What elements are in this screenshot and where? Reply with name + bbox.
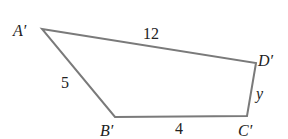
vertex-label-b: B′ [100,122,114,139]
side-length-ad: 12 [143,25,159,42]
quadrilateral-shape [42,29,256,117]
vertex-label-a: A′ [12,22,27,39]
side-length-bc: 4 [175,120,183,137]
side-length-cd: y [254,85,264,103]
side-length-ab: 5 [61,74,69,91]
vertex-label-c: C′ [238,122,253,139]
quadrilateral-diagram: A′ D′ C′ B′ 12 5 4 y [0,0,288,139]
vertex-label-d: D′ [257,52,274,69]
